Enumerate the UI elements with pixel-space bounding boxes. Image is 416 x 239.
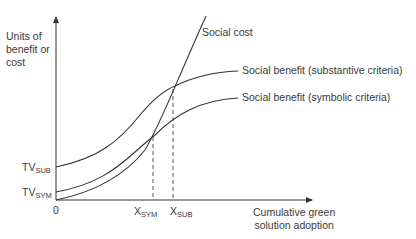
benefit-substantive-label: Social benefit (substantive criteria) — [242, 64, 403, 77]
social-cost-label: Social cost — [202, 26, 253, 39]
benefit-symbolic-curve — [56, 98, 238, 192]
origin-label: 0 — [53, 204, 59, 217]
tv-sub-label: TVSUB — [22, 161, 51, 177]
x-sub-label: XSUB — [170, 205, 192, 221]
tv-sym-label: TVSYM — [22, 186, 52, 202]
y-axis-label: Units of benefit or cost — [6, 30, 50, 69]
x-sym-label: XSYM — [134, 205, 157, 221]
x-axis-label: Cumulative green solution adoption — [253, 206, 335, 232]
social-cost-curve — [56, 16, 206, 200]
benefit-substantive-curve — [56, 71, 238, 167]
benefit-symbolic-label: Social benefit (symbolic criteria) — [242, 91, 390, 104]
